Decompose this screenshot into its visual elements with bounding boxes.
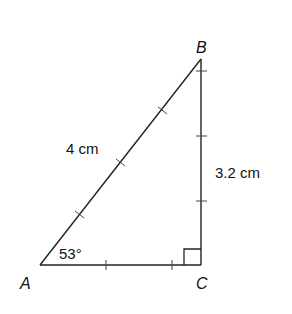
ticks-ab: [75, 107, 167, 218]
angle-a-label: 53°: [59, 245, 82, 262]
right-angle-marker: [184, 249, 201, 265]
triangle-diagram: B A C 4 cm 3.2 cm 53°: [0, 0, 292, 314]
vertical-side-length-label: 3.2 cm: [215, 164, 260, 181]
vertex-label-b: B: [196, 39, 207, 56]
vertex-label-a: A: [19, 275, 31, 292]
vertex-label-c: C: [196, 275, 208, 292]
hypotenuse-length-label: 4 cm: [66, 140, 99, 157]
